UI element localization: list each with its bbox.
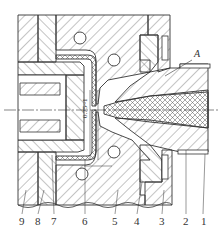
- label-9: 9: [19, 216, 25, 227]
- label-1: 1: [201, 216, 207, 227]
- label-5: 5: [112, 216, 118, 227]
- insulation-core: [104, 90, 208, 128]
- label-2: 2: [183, 216, 189, 227]
- label-7: 7: [51, 216, 57, 227]
- part-7: [18, 62, 84, 152]
- label-6: 6: [82, 216, 88, 227]
- callout-a: A: [194, 48, 200, 59]
- label-3: 3: [159, 216, 165, 227]
- label-4: 4: [134, 216, 140, 227]
- cross-section-drawing: 0.75~1: [0, 0, 222, 236]
- label-8: 8: [35, 216, 41, 227]
- svg-text:0.75~1: 0.75~1: [81, 98, 89, 118]
